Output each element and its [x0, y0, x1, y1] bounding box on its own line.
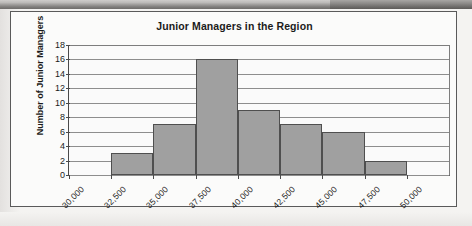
- x-axis-tick-mark: [238, 175, 239, 179]
- gridline: [69, 175, 449, 176]
- bar: [111, 153, 153, 175]
- y-axis-tick-mark: [66, 117, 70, 118]
- x-axis-tick-label: 30,000: [60, 184, 86, 210]
- y-axis-tick-mark: [66, 146, 70, 147]
- x-axis-tick-label: 35,000: [144, 184, 170, 210]
- y-axis-tick-mark: [66, 88, 70, 89]
- y-axis-tick-mark: [66, 132, 70, 133]
- x-axis-tick-mark: [153, 175, 154, 179]
- y-axis-tick-label: 10: [55, 98, 65, 108]
- bar: [238, 110, 280, 175]
- gridline: [69, 88, 449, 89]
- bar: [322, 132, 364, 175]
- x-axis-tick-mark: [365, 175, 366, 179]
- x-axis-tick-label: 45,000: [313, 184, 339, 210]
- x-axis-tick-mark: [407, 175, 408, 179]
- gridline: [69, 74, 449, 75]
- chart-container: Junior Managers in the Region Number of …: [10, 11, 457, 207]
- screenshot-root: Junior Managers in the Region Number of …: [0, 0, 472, 226]
- scan-edge-artifact-right: [330, 0, 472, 9]
- y-axis-tick-label: 0: [60, 170, 65, 180]
- y-axis-tick-mark: [66, 161, 70, 162]
- x-axis-tick-label: 40,000: [229, 184, 255, 210]
- y-axis-tick-label: 14: [55, 69, 65, 79]
- y-axis-tick-mark: [66, 59, 70, 60]
- gridline: [69, 59, 449, 60]
- x-axis-tick-mark: [111, 175, 112, 179]
- x-axis-tick-label: 47,500: [355, 184, 381, 210]
- bar: [196, 59, 238, 175]
- y-axis-tick-label: 12: [55, 83, 65, 93]
- x-axis-tick-label: 50,000: [398, 184, 424, 210]
- y-axis-tick-mark: [66, 103, 70, 104]
- y-axis-tick-mark: [66, 74, 70, 75]
- bar: [153, 124, 195, 175]
- y-axis-tick-label: 8: [60, 112, 65, 122]
- x-axis-tick-mark: [69, 175, 70, 179]
- bar: [280, 124, 322, 175]
- y-axis-tick-label: 4: [60, 141, 65, 151]
- y-axis-tick-label: 6: [60, 127, 65, 137]
- y-axis-tick-mark: [66, 45, 70, 46]
- y-axis-tick-label: 18: [55, 40, 65, 50]
- x-axis-tick-mark: [322, 175, 323, 179]
- gridline: [69, 45, 449, 46]
- chart-title: Junior Managers in the Region: [11, 20, 458, 32]
- y-axis-tick-label: 2: [60, 156, 65, 166]
- x-axis-tick-label: 42,500: [271, 184, 297, 210]
- gridline: [69, 103, 449, 104]
- y-axis-title: Number of Junior Managers: [35, 11, 46, 141]
- scan-shadow-bottom: [0, 212, 472, 226]
- x-axis-tick-label: 37,500: [186, 184, 212, 210]
- bar: [365, 161, 407, 175]
- x-axis-tick-mark: [280, 175, 281, 179]
- plot-area: 024681012141618 30,00032,50035,00037,500…: [68, 45, 450, 176]
- x-axis-tick-mark: [196, 175, 197, 179]
- y-axis-tick-label: 16: [55, 54, 65, 64]
- x-axis-tick-label: 32,500: [102, 184, 128, 210]
